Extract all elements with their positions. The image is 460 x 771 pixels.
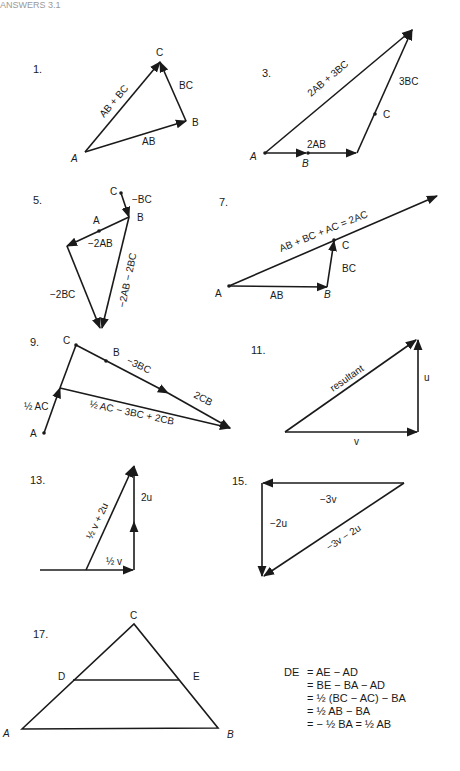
label-3bc: 3BC xyxy=(399,76,418,87)
label-u: u xyxy=(424,372,430,383)
segment-ac xyxy=(60,345,76,388)
derivation-step-5: = − ½ BA = ½ AB xyxy=(307,718,391,730)
problem-17: 17. C D E A B xyxy=(2,610,234,740)
point-a: A xyxy=(70,153,78,164)
vector-neg-bc xyxy=(121,193,129,217)
label-2ab: 2AB xyxy=(307,139,326,150)
point-b: B xyxy=(113,347,120,358)
vector-resultant xyxy=(285,340,416,432)
problem-number: 13. xyxy=(30,474,45,486)
problem-15: 15. −3v −2u −3v − 2u xyxy=(232,475,404,576)
point-c: C xyxy=(130,610,137,621)
point-a: A xyxy=(215,288,222,299)
label-sum: AB + BC xyxy=(97,83,130,120)
derivation-step-3: = ½ (BC − AC) − BA xyxy=(307,692,406,704)
point-b: B xyxy=(324,289,331,300)
point-e: E xyxy=(193,671,200,682)
point-b: B xyxy=(302,158,309,169)
problem-number: 15. xyxy=(232,475,247,487)
problem-13: 13. 2u ½ v ½ v + 2u xyxy=(30,466,152,570)
point-b: B xyxy=(227,729,234,740)
problem-number: 17. xyxy=(33,628,48,640)
label-ab: AB xyxy=(270,290,284,301)
derivation-line: = BE − BA − AD xyxy=(284,679,406,692)
label-bc: BC xyxy=(179,80,193,91)
label-sum: −2AB − 2BC xyxy=(116,252,138,309)
label-half-ac: ½ AC xyxy=(24,401,48,412)
problem-number: 7. xyxy=(219,196,228,208)
problem-9: 9. C B A −3BC 2CB ½ AC ½ AC − 3BC + 2CB xyxy=(24,335,230,439)
point-b: B xyxy=(192,117,199,128)
problem-number: 3. xyxy=(262,67,271,79)
vector-ab xyxy=(229,286,327,287)
label-neg-2bc: −2BC xyxy=(50,289,75,300)
derivation-step-2: = BE − BA − AD xyxy=(307,679,385,691)
derivation-line: DE = AE − AD xyxy=(284,666,406,679)
point-a: A xyxy=(30,428,37,439)
problem-number: 9. xyxy=(30,336,39,348)
label-v: v xyxy=(354,436,359,447)
vector-neg-3bc xyxy=(76,345,168,393)
derivation-line: = ½ (BC − AC) − BA xyxy=(284,692,406,705)
point-a: A xyxy=(249,151,257,162)
point-c: C xyxy=(342,240,349,251)
label-half-v: ½ v xyxy=(106,556,122,567)
label-neg-2u: −2u xyxy=(270,518,287,529)
problem-11: 11. u v resultant xyxy=(251,340,430,447)
label-ab: AB xyxy=(142,136,156,147)
problem-7: 7. A B C AB BC AB + BC + AC = 2AC xyxy=(215,196,437,301)
problem-3: 3. A B C 2AB 3BC 2AB + 3BC xyxy=(249,30,418,169)
point-c: C xyxy=(383,109,390,120)
problem-number: 11. xyxy=(251,344,265,356)
point-d: D xyxy=(58,671,65,682)
derivation-block: DE = AE − AD = BE − BA − AD = ½ (BC − AC… xyxy=(284,666,406,731)
label-2u: 2u xyxy=(141,492,152,503)
label-neg-2ab: −2AB xyxy=(88,238,113,249)
derivation-line: = ½ AB − BA xyxy=(284,705,406,718)
vector-neg-2bc xyxy=(67,246,100,328)
vector-bc xyxy=(327,241,334,287)
point-a: A xyxy=(2,728,10,739)
problem-number: 5. xyxy=(33,194,42,206)
derivation-lhs: DE xyxy=(284,666,304,679)
vector-diagrams: 1. A B C AB BC AB + BC 3. A B C 2AB 3BC … xyxy=(0,0,460,771)
label-neg-3v: −3v xyxy=(320,494,336,505)
problem-number: 1. xyxy=(33,63,42,75)
label-sum: ½ v + 2u xyxy=(84,501,110,541)
vector-bc xyxy=(160,62,186,121)
point-c: C xyxy=(156,47,163,58)
problem-5: 5. C B A −BC −2AB −2BC −2AB − 2BC xyxy=(33,186,152,328)
vector-ab xyxy=(85,121,186,152)
vector-sum xyxy=(265,30,412,153)
derivation-step-1: = AE − AD xyxy=(307,666,358,678)
label-bc: BC xyxy=(342,263,356,274)
label-sum: −3v − 2u xyxy=(324,522,363,552)
point-c: C xyxy=(63,335,70,346)
label-sum: ½ AC − 3BC + 2CB xyxy=(89,398,176,427)
derivation-step-4: = ½ AB − BA xyxy=(307,705,370,717)
derivation-line: = − ½ BA = ½ AB xyxy=(284,718,406,731)
point-c: C xyxy=(110,186,117,197)
vector-3bc xyxy=(357,30,412,153)
point-a: A xyxy=(93,215,100,226)
point-b: B xyxy=(137,212,144,223)
label-neg-bc: −BC xyxy=(132,194,152,205)
triangle-abc xyxy=(22,624,218,729)
problem-1: 1. A B C AB BC AB + BC xyxy=(33,47,199,164)
label-sum: 2AB + 3BC xyxy=(305,58,350,98)
label-2cb: 2CB xyxy=(192,389,215,408)
